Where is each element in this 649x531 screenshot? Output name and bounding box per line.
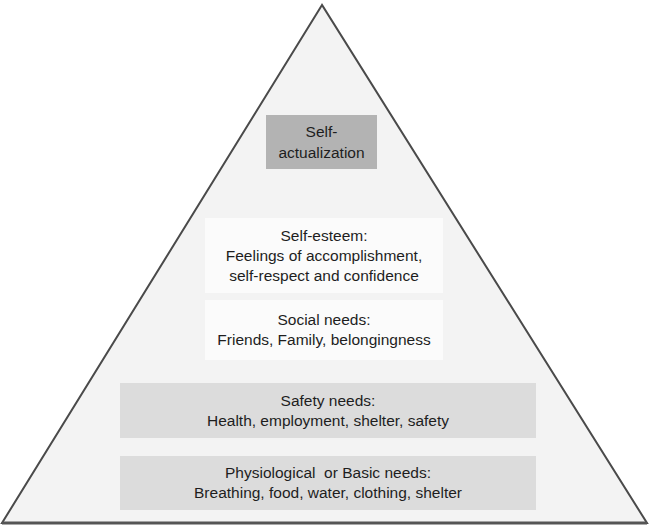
level-physiological-needs-title: Physiological or Basic needs:	[225, 463, 431, 483]
level-safety-needs: Safety needs: Health, employment, shelte…	[120, 383, 536, 438]
level-social-needs-title: Social needs:	[277, 310, 370, 330]
level-physiological-needs: Physiological or Basic needs: Breathing,…	[120, 456, 536, 510]
level-safety-needs-title: Safety needs:	[281, 391, 376, 411]
level-social-needs-line2: Friends, Family, belongingness	[217, 330, 430, 350]
level-self-esteem-title: Self-esteem:	[280, 226, 367, 246]
level-self-esteem: Self-esteem: Feelings of accomplishment,…	[205, 218, 443, 293]
level-self-esteem-line2: Feelings of accomplishment,	[226, 246, 422, 266]
level-self-actualization: Self- actualization	[266, 115, 377, 169]
level-safety-needs-line2: Health, employment, shelter, safety	[207, 411, 449, 431]
level-self-actualization-subtitle: actualization	[278, 142, 364, 163]
level-social-needs: Social needs: Friends, Family, belonging…	[205, 300, 443, 360]
level-physiological-needs-line2: Breathing, food, water, clothing, shelte…	[194, 483, 462, 503]
level-self-esteem-line3: self-respect and confidence	[229, 266, 419, 286]
level-self-actualization-title: Self-	[306, 121, 338, 142]
